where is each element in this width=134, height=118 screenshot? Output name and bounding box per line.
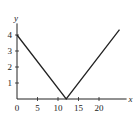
- x-tick-label: 20: [95, 103, 105, 113]
- y-axis-label: y: [13, 13, 18, 23]
- x-tick-label: 5: [35, 103, 40, 113]
- x-tick-label: 10: [54, 103, 64, 113]
- chart: xy051015201234: [0, 0, 134, 118]
- x-tick-label: 15: [74, 103, 84, 113]
- x-axis-label: x: [128, 94, 133, 104]
- y-tick-label: 4: [8, 30, 13, 40]
- y-tick-label: 1: [8, 78, 13, 88]
- data-line: [17, 30, 120, 99]
- y-tick-label: 3: [8, 46, 13, 56]
- x-tick-label: 0: [15, 103, 20, 113]
- y-tick-label: 2: [8, 62, 13, 72]
